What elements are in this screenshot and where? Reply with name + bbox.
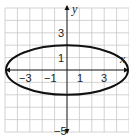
x-axis-label: x xyxy=(119,52,126,66)
x-tick-1: 1 xyxy=(77,72,83,84)
x-tick-3: 3 xyxy=(101,72,107,84)
ellipse-graph: y x −3 −1 1 3 3 1 −5 xyxy=(0,0,129,136)
y-axis-arrow-up-icon xyxy=(65,5,70,10)
y-tick-1: 1 xyxy=(58,52,64,64)
axes xyxy=(6,6,128,133)
x-tick-neg3: −3 xyxy=(19,72,32,84)
y-tick-3: 3 xyxy=(58,27,64,39)
y-axis-label: y xyxy=(71,2,78,16)
x-tick-neg1: −1 xyxy=(44,72,57,84)
y-tick-neg5: −5 xyxy=(54,125,67,136)
